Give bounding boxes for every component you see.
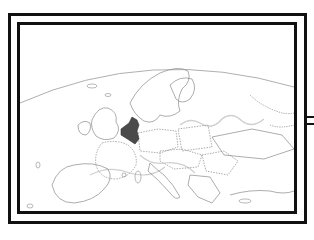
connector-line-top (307, 116, 314, 118)
europe-map (20, 25, 294, 211)
connector-line-bottom (307, 123, 314, 125)
map-frame (17, 22, 297, 214)
benelux-highlight (121, 117, 139, 144)
